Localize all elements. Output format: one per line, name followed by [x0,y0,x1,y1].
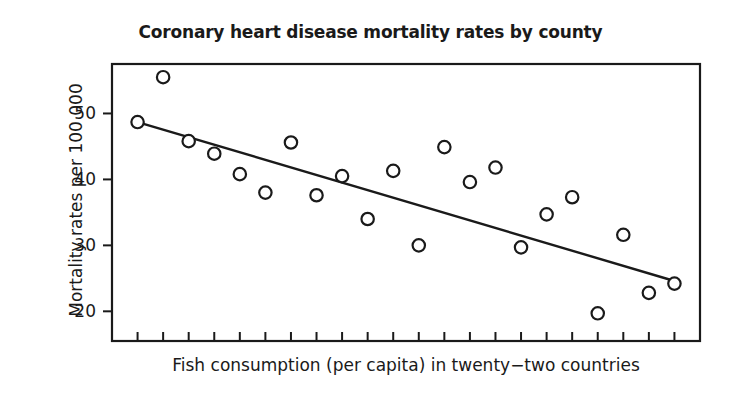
data-point [157,71,169,83]
data-point [336,170,348,182]
chart-page: Coronary heart disease mortality rates b… [0,0,741,402]
data-point [515,241,527,253]
data-point [259,186,271,198]
data-point [464,176,476,188]
data-point [566,191,578,203]
data-point [643,287,655,299]
y-tick-label: 30 [74,235,96,255]
regression-line [138,122,675,281]
scatter-plot: 20304050 [0,0,741,402]
y-tick-label: 40 [74,169,96,189]
data-point [208,147,220,159]
data-point [234,168,246,180]
data-point [438,141,450,153]
data-point [540,208,552,220]
data-point [131,116,143,128]
data-point [489,161,501,173]
data-point [413,239,425,251]
data-points [131,71,680,320]
y-axis-ticks: 20304050 [74,103,112,321]
data-point [310,189,322,201]
data-point [387,165,399,177]
data-point [668,277,680,289]
data-point [361,213,373,225]
x-axis-ticks [138,332,675,341]
data-point [617,229,629,241]
y-tick-label: 20 [74,301,96,321]
data-point [592,307,604,319]
data-point [285,136,297,148]
y-tick-label: 50 [74,103,96,123]
data-point [182,135,194,147]
